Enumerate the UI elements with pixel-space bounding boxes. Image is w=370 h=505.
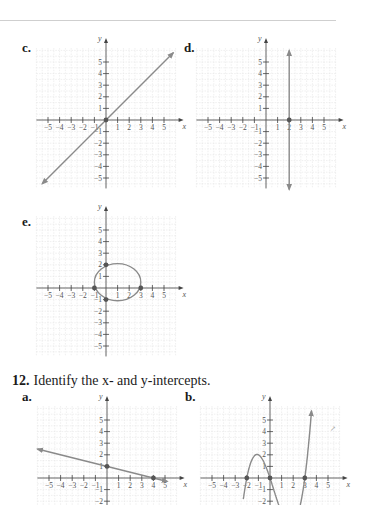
intercept-point (244, 476, 249, 481)
y-tick-label: −4 (94, 330, 102, 339)
x-tick-label: −4 (220, 481, 228, 490)
intercept-point (104, 297, 109, 302)
y-tick-label: −4 (94, 162, 102, 171)
y-tick-label: 5 (99, 416, 103, 425)
y-tick-label: 5 (98, 226, 102, 235)
x-tick-label: 5 (162, 291, 166, 300)
y-tick-label: 2 (99, 450, 103, 459)
cubic-curve (300, 411, 312, 505)
x-tick-label: 4 (311, 123, 315, 132)
stray-mark: ↗ (330, 425, 336, 433)
x-tick-label: −5 (45, 481, 53, 490)
x-tick-label: 4 (152, 481, 156, 490)
y-tick-label: −2 (254, 139, 262, 148)
graph-d: xy−5−4−3−2−11234554321−1−2−3−4−5 (196, 34, 346, 190)
y-axis-arrow-icon (105, 396, 109, 401)
x-axis-label: x (183, 480, 188, 489)
x-tick-label: 4 (151, 123, 155, 132)
x-tick-label: 3 (139, 291, 143, 300)
x-axis-label: x (182, 290, 187, 299)
y-tick-label: −5 (94, 342, 102, 351)
intercept-point (302, 476, 307, 481)
intercept-point (104, 262, 109, 267)
y-tick-label: −5 (94, 174, 102, 183)
x-tick-label: −3 (67, 291, 75, 300)
y-tick-label: −5 (254, 174, 262, 183)
graph-e: xy−5−4−3−2−11234554321−1−2−3−4−5 (36, 202, 186, 356)
y-tick-label: 5 (262, 416, 266, 425)
y-axis-label: y (257, 34, 262, 43)
y-tick-label: 4 (98, 69, 102, 78)
y-axis-arrow-icon (104, 206, 108, 211)
x-tick-label: −4 (56, 123, 64, 132)
x-tick-label: 5 (326, 481, 330, 490)
x-tick-label: −5 (204, 123, 212, 132)
x-tick-label: 2 (127, 123, 131, 132)
x-tick-label: −2 (80, 481, 88, 490)
x-axis-label: x (346, 480, 351, 489)
x-tick-label: 2 (128, 481, 132, 490)
x-tick-label: 1 (116, 123, 120, 132)
y-tick-label: 2 (262, 450, 266, 459)
y-axis-label: y (97, 202, 102, 211)
x-tick-label: 1 (117, 481, 121, 490)
y-tick-label: 3 (258, 81, 262, 90)
x-tick-label: 1 (280, 481, 284, 490)
y-tick-label: 4 (99, 427, 103, 436)
x-tick-label: 4 (151, 291, 155, 300)
intercept-point (92, 286, 97, 291)
y-tick-label: 4 (262, 427, 266, 436)
x-tick-label: 3 (139, 123, 143, 132)
y-tick-label: −2 (95, 497, 103, 505)
y-tick-label: −2 (258, 497, 266, 505)
y-axis-label: y (97, 34, 102, 43)
y-tick-label: −2 (94, 139, 102, 148)
y-tick-label: 4 (98, 237, 102, 246)
y-tick-label: 1 (258, 104, 262, 113)
y-tick-label: 4 (258, 69, 262, 78)
y-tick-label: 2 (98, 92, 102, 101)
intercept-point (268, 476, 273, 481)
x-tick-label: −2 (79, 123, 87, 132)
x-tick-label: −4 (57, 481, 65, 490)
x-tick-label: 3 (299, 123, 303, 132)
y-tick-label: 1 (98, 104, 102, 113)
x-tick-label: −3 (67, 123, 75, 132)
y-tick-label: −4 (254, 162, 262, 171)
x-tick-label: −4 (216, 123, 224, 132)
x-tick-label: −5 (44, 291, 52, 300)
x-tick-label: −3 (231, 481, 239, 490)
intercept-point (151, 476, 156, 481)
y-tick-label: 1 (99, 462, 103, 471)
y-axis-label: y (261, 392, 266, 401)
x-tick-label: 3 (140, 481, 144, 490)
x-tick-label: −4 (56, 291, 64, 300)
y-tick-label: −3 (254, 150, 262, 159)
y-tick-label: −3 (94, 318, 102, 327)
y-tick-label: −1 (258, 485, 266, 494)
y-axis-arrow-icon (268, 396, 272, 401)
intercept-point (105, 464, 110, 469)
x-tick-label: 1 (116, 291, 120, 300)
y-tick-label: −1 (94, 295, 102, 304)
graph-12a: xy−5−4−3−2−11234554321−1−2 (37, 392, 187, 505)
x-tick-label: 2 (291, 481, 295, 490)
x-tick-label: 5 (322, 123, 326, 132)
y-tick-label: 3 (98, 249, 102, 258)
x-axis-label: x (342, 122, 347, 131)
y-tick-label: −1 (254, 127, 262, 136)
x-tick-label: 5 (162, 123, 166, 132)
x-axis-label: x (182, 122, 187, 131)
y-axis-label: y (98, 392, 103, 401)
x-tick-label: 1 (276, 123, 280, 132)
x-tick-label: −3 (68, 481, 76, 490)
x-tick-label: −2 (79, 291, 87, 300)
x-tick-label: −2 (243, 481, 251, 490)
x-tick-label: −5 (208, 481, 216, 490)
y-axis-arrow-icon (104, 38, 108, 43)
y-axis-arrow-icon (264, 38, 268, 43)
graph-12b: xy−5−4−3−2−11234554321−1−2 (200, 392, 350, 505)
x-tick-label: −5 (44, 123, 52, 132)
y-tick-label: 5 (258, 58, 262, 67)
x-tick-label: 4 (315, 481, 319, 490)
